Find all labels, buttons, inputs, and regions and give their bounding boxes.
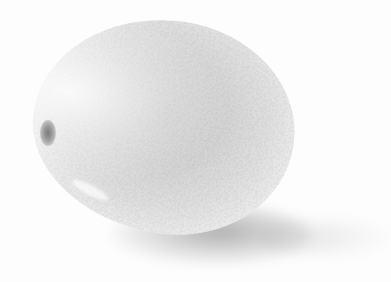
fruit-highlight [19,3,308,250]
stem-end [40,120,56,146]
lemon-fruit [19,3,308,250]
photo-scene [0,0,391,282]
